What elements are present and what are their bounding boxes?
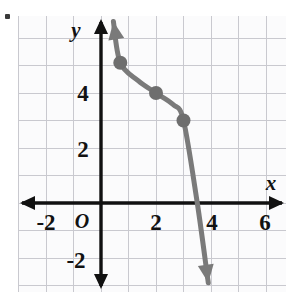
point-3: [177, 114, 191, 128]
x-tick-label-2: 2: [150, 210, 162, 235]
x-tick-label-4: 4: [206, 210, 218, 235]
y-tick-label-neg2: -2: [66, 248, 85, 273]
graph-background: [18, 16, 286, 292]
x-tick-label-neg2: -2: [36, 210, 55, 235]
graph-page: y x O -2 2 4 6 4 2 -2: [0, 0, 293, 297]
coordinate-graph: y x O -2 2 4 6 4 2 -2: [0, 0, 293, 297]
y-tick-label-2: 2: [77, 137, 89, 162]
y-tick-label-4: 4: [77, 81, 89, 106]
point-2: [149, 86, 163, 100]
x-axis-label: x: [265, 171, 277, 195]
x-tick-label-6: 6: [259, 210, 271, 235]
origin-label: O: [75, 210, 89, 232]
point-1: [113, 56, 127, 70]
